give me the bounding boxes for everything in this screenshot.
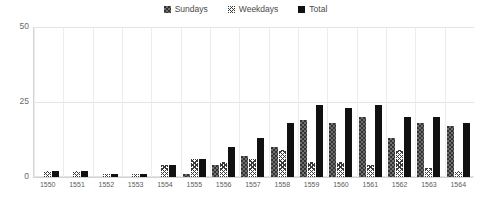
x-tick-label-1564: 1564 [444, 180, 473, 194]
bar-sundays-1560[interactable] [329, 123, 336, 177]
bar-weekdays-1559[interactable] [308, 162, 315, 177]
x-tick-label-1558: 1558 [268, 180, 297, 194]
bar-weekdays-1562[interactable] [396, 150, 403, 177]
bar-group [92, 27, 121, 177]
y-tick-label-0: 0 [5, 172, 29, 181]
x-tick-label-1553: 1553 [121, 180, 150, 194]
y-axis: 50 25 0 [0, 27, 29, 177]
x-tick-label-1559: 1559 [297, 180, 326, 194]
x-tick-label-1555: 1555 [180, 180, 209, 194]
x-axis-line [33, 177, 473, 178]
bar-group [121, 27, 150, 177]
x-tick-label-1560: 1560 [326, 180, 355, 194]
bar-sundays-1557[interactable] [241, 156, 248, 177]
bar-sundays-1562[interactable] [388, 138, 395, 177]
legend-label-weekdays: Weekdays [239, 5, 279, 14]
x-axis-labels: 1550155115521553155415551556155715581559… [33, 180, 473, 194]
bar-weekdays-1563[interactable] [425, 168, 432, 177]
y-tick-label-25: 25 [5, 97, 29, 106]
x-tick-label-1562: 1562 [385, 180, 414, 194]
bar-total-1558[interactable] [287, 123, 294, 177]
legend-item-weekdays[interactable]: Weekdays [228, 5, 279, 14]
bar-total-1564[interactable] [463, 123, 470, 177]
bar-group [356, 27, 385, 177]
bar-total-1561[interactable] [375, 105, 382, 177]
x-tick-label-1552: 1552 [92, 180, 121, 194]
bar-group [33, 27, 62, 177]
legend-label-total: Total [309, 5, 327, 14]
bar-weekdays-1555[interactable] [191, 159, 198, 177]
bar-total-1559[interactable] [316, 105, 323, 177]
bar-sundays-1561[interactable] [359, 117, 366, 177]
x-tick-label-1561: 1561 [356, 180, 385, 194]
x-tick-label-1557: 1557 [238, 180, 267, 194]
legend-swatch-weekdays-icon [228, 6, 235, 13]
bar-sundays-1556[interactable] [212, 165, 219, 177]
chart-legend: Sundays Weekdays Total [0, 2, 491, 16]
x-tick-label-1563: 1563 [414, 180, 443, 194]
bar-groups [33, 27, 473, 177]
bar-chart: Sundays Weekdays Total 50 25 0 155015511… [0, 0, 491, 202]
legend-swatch-sundays-icon [164, 6, 171, 13]
bar-group [297, 27, 326, 177]
bar-group [444, 27, 473, 177]
x-tick-label-1550: 1550 [33, 180, 62, 194]
bar-total-1556[interactable] [228, 147, 235, 177]
x-tick-label-1556: 1556 [209, 180, 238, 194]
legend-item-sundays[interactable]: Sundays [164, 5, 208, 14]
bar-group [385, 27, 414, 177]
bar-weekdays-1556[interactable] [220, 162, 227, 177]
bar-sundays-1558[interactable] [271, 147, 278, 177]
bar-total-1554[interactable] [169, 165, 176, 177]
bar-group [238, 27, 267, 177]
bar-group [414, 27, 443, 177]
bar-sundays-1563[interactable] [417, 123, 424, 177]
bar-group [180, 27, 209, 177]
bar-weekdays-1560[interactable] [337, 162, 344, 177]
x-tick-label-1554: 1554 [150, 180, 179, 194]
y-tick-label-50: 50 [5, 22, 29, 31]
bar-weekdays-1557[interactable] [249, 159, 256, 177]
legend-item-total[interactable]: Total [298, 5, 327, 14]
x-tick-label-1551: 1551 [62, 180, 91, 194]
bar-sundays-1564[interactable] [447, 126, 454, 177]
bar-weekdays-1558[interactable] [279, 150, 286, 177]
legend-swatch-total-icon [298, 6, 305, 13]
bar-group [268, 27, 297, 177]
bar-total-1562[interactable] [404, 117, 411, 177]
bar-weekdays-1561[interactable] [367, 165, 374, 177]
bar-total-1560[interactable] [345, 108, 352, 177]
bar-sundays-1559[interactable] [300, 120, 307, 177]
bar-total-1557[interactable] [257, 138, 264, 177]
bar-group [150, 27, 179, 177]
bar-group [326, 27, 355, 177]
bar-total-1563[interactable] [433, 117, 440, 177]
bar-group [62, 27, 91, 177]
bar-group [209, 27, 238, 177]
bar-total-1555[interactable] [199, 159, 206, 177]
legend-label-sundays: Sundays [175, 5, 208, 14]
bar-weekdays-1554[interactable] [161, 165, 168, 177]
